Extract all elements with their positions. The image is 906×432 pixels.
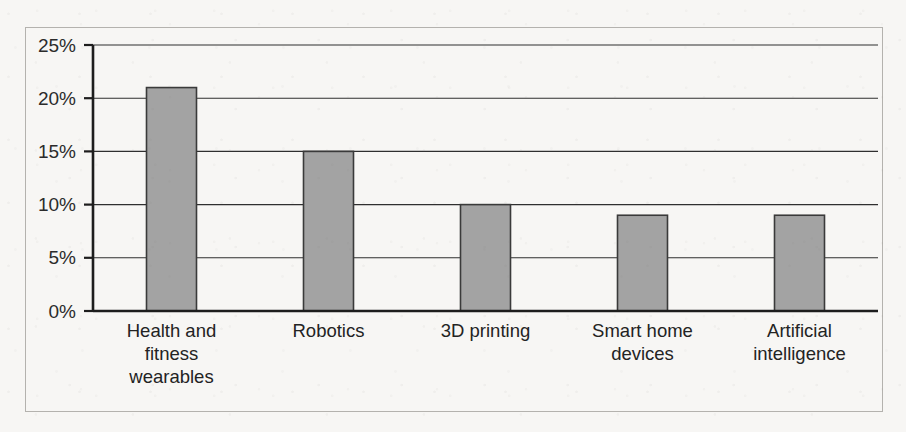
bar-health-and-fitness-wearables [147, 88, 197, 311]
bar-robotics [304, 151, 354, 311]
category-label: Artificialintelligence [753, 320, 846, 364]
bars-group [147, 88, 825, 311]
category-label: Smart homedevices [592, 320, 693, 364]
y-axis-tick-label: 5% [49, 247, 77, 268]
bar-3d-printing [461, 205, 511, 311]
y-axis-tick-label: 10% [38, 194, 76, 215]
y-axis-tick-label: 20% [38, 88, 76, 109]
y-axis-tick-label: 15% [38, 141, 76, 162]
y-axis-tick-label: 0% [49, 301, 77, 322]
category-label: Health andfitnesswearables [127, 320, 216, 387]
category-label: 3D printing [441, 320, 530, 341]
bar-chart-plot: 0%5%10%15%20%25% Health andfitnesswearab… [26, 28, 882, 411]
y-axis-ticks-group [84, 45, 93, 311]
bar-artificial-intelligence [775, 215, 825, 311]
category-labels-group: Health andfitnesswearablesRobotics3D pri… [127, 320, 846, 387]
y-axis-tick-label: 25% [38, 35, 76, 56]
bar-smart-home-devices [618, 215, 668, 311]
category-label: Robotics [293, 320, 365, 341]
y-axis-labels-group: 0%5%10%15%20%25% [38, 35, 76, 322]
chart-frame: 0%5%10%15%20%25% Health andfitnesswearab… [25, 27, 883, 412]
